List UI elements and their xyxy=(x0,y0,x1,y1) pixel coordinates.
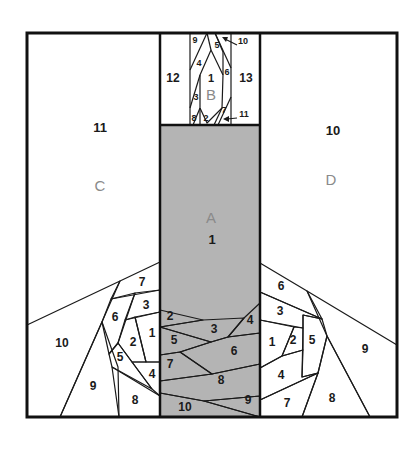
label-c6: 6 xyxy=(112,310,119,324)
section-letter-b: B xyxy=(206,86,216,103)
label-d10: 10 xyxy=(326,123,340,138)
label-d1: 1 xyxy=(269,335,276,349)
label-b5: 5 xyxy=(214,40,219,50)
label-d2: 2 xyxy=(290,333,297,347)
label-c5: 5 xyxy=(117,350,124,364)
section-d xyxy=(260,33,397,417)
label-a4: 4 xyxy=(247,313,254,327)
label-a7: 7 xyxy=(167,357,174,371)
label-a8: 8 xyxy=(218,373,225,387)
label-a5: 5 xyxy=(171,333,178,347)
label-a1: 1 xyxy=(208,232,215,247)
label-a9: 9 xyxy=(245,393,252,407)
label-a3: 3 xyxy=(211,322,218,336)
label-b7: 7 xyxy=(221,105,226,115)
section-d-background xyxy=(260,33,397,417)
label-a2: 2 xyxy=(167,309,174,323)
label-b1: 1 xyxy=(208,72,214,84)
label-b10: 10 xyxy=(238,36,248,46)
label-d7: 7 xyxy=(284,396,291,410)
label-b8: 8 xyxy=(191,113,196,123)
section-c xyxy=(27,33,160,417)
label-c4: 4 xyxy=(149,367,156,381)
label-d5: 5 xyxy=(309,333,316,347)
label-b3: 3 xyxy=(193,92,198,102)
section-letter-d: D xyxy=(326,171,337,188)
label-b13: 13 xyxy=(239,71,253,85)
label-b9: 9 xyxy=(192,35,197,45)
section-letter-a: A xyxy=(206,209,216,226)
label-d4: 4 xyxy=(278,368,285,382)
label-c9: 9 xyxy=(90,379,97,393)
label-c10: 10 xyxy=(55,336,69,350)
label-b12: 12 xyxy=(166,71,180,85)
quilt-pattern-diagram: C D A B 1 2 3 4 5 6 7 8 9 10 1 2 3 4 5 6… xyxy=(0,0,420,449)
label-a6: 6 xyxy=(231,344,238,358)
label-c11: 11 xyxy=(93,120,107,135)
label-d6: 6 xyxy=(278,279,285,293)
label-b2: 2 xyxy=(203,113,208,123)
label-d9: 9 xyxy=(362,342,369,356)
label-c2: 2 xyxy=(130,335,137,349)
section-c-background xyxy=(27,33,160,417)
label-b11: 11 xyxy=(239,109,249,119)
label-c3: 3 xyxy=(143,298,150,312)
label-c8: 8 xyxy=(132,393,139,407)
label-c1: 1 xyxy=(149,326,156,340)
section-a xyxy=(160,125,260,417)
section-letter-c: C xyxy=(95,177,106,194)
label-d3: 3 xyxy=(277,304,284,318)
label-c7: 7 xyxy=(139,275,146,289)
label-b4: 4 xyxy=(196,58,201,68)
label-d8: 8 xyxy=(329,391,336,405)
label-a10: 10 xyxy=(178,400,192,414)
label-b6: 6 xyxy=(224,67,229,77)
